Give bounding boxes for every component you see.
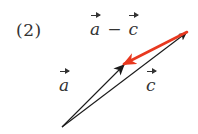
- vector-a-arrow: [62, 65, 124, 127]
- vector-diagram: [0, 0, 198, 134]
- vector-a-minus-c-arrow: [124, 32, 187, 64]
- vector-c-arrow: [62, 33, 186, 127]
